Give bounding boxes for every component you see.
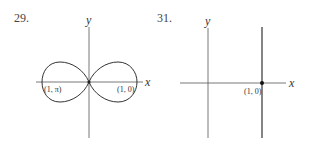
figure-31-x-label: x bbox=[288, 76, 295, 90]
figure-29-origin-node bbox=[87, 80, 90, 83]
figure-29-y-label: y bbox=[85, 13, 92, 27]
figure-31-y-label: y bbox=[204, 14, 211, 28]
figure-29-x-label: x bbox=[144, 75, 151, 89]
figure-29-point-left: (1, π) bbox=[44, 85, 62, 94]
figure-31-point-dot bbox=[260, 81, 264, 85]
figure-29-point-right: (1, 0) bbox=[117, 85, 135, 94]
figure-29: y x (1, π) (1, 0) bbox=[36, 13, 151, 138]
figure-31-point-label: (1, 0) bbox=[244, 87, 262, 96]
figure-31: y x (1, 0) bbox=[180, 14, 295, 138]
figures-canvas: y x (1, π) (1, 0) y x (1, 0) bbox=[0, 0, 311, 148]
